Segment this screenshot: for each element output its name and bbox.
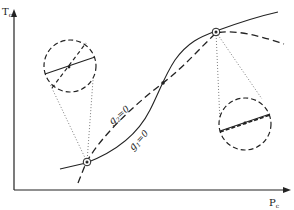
y-axis-label: Tc: [2, 6, 13, 18]
left-projection-line-1: [50, 84, 87, 162]
g1-label: g1=0: [126, 127, 151, 153]
g2-label: g2=0: [106, 103, 132, 127]
right-magnifier: [219, 98, 271, 150]
right-projection-line-1: [216, 32, 220, 122]
left-projection-line-2: [87, 80, 93, 162]
svg-text:g2=0: g2=0: [106, 103, 132, 127]
right-projection-line-2: [216, 32, 262, 99]
left-magnifier: [44, 40, 96, 92]
x-axis-arrow: [283, 187, 291, 193]
x-axis-label: Pc: [269, 197, 280, 209]
middle-crossing-point: [161, 81, 165, 85]
diagram-canvas: Tc Pc g2=0 g1=0: [0, 0, 294, 210]
svg-text:g1=0: g1=0: [126, 127, 151, 153]
